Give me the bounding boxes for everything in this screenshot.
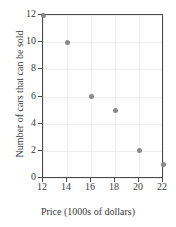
y-tick-mark — [38, 68, 42, 69]
data-point — [89, 94, 94, 99]
y-tick-mark — [38, 123, 42, 124]
x-tick-label: 18 — [102, 181, 126, 193]
y-tick-mark — [38, 177, 42, 178]
data-point — [161, 162, 166, 167]
y-tick-mark — [38, 96, 42, 97]
x-tick-label: 16 — [78, 181, 102, 193]
x-tick-label: 22 — [150, 181, 174, 193]
gridline-horizontal — [43, 69, 162, 70]
x-axis-title: Price (1000s of dollars) — [0, 206, 176, 218]
y-tick-mark — [38, 14, 42, 15]
gridline-horizontal — [43, 124, 162, 125]
y-tick-mark — [38, 150, 42, 151]
scatter-plot-figure: 121416182022 024681012 Price (1000s of d… — [0, 0, 176, 227]
gridline-horizontal — [43, 15, 162, 16]
data-point — [113, 108, 118, 113]
y-axis-title: Number of cars that can be sold — [14, 4, 26, 184]
x-tick-label: 20 — [126, 181, 150, 193]
data-point — [137, 148, 142, 153]
gridline-horizontal — [43, 151, 162, 152]
gridline-horizontal — [43, 178, 162, 179]
plot-area — [42, 14, 163, 178]
gridline-vertical — [163, 15, 164, 177]
data-point — [65, 40, 70, 45]
y-tick-mark — [38, 41, 42, 42]
x-tick-label: 14 — [54, 181, 78, 193]
gridline-horizontal — [43, 42, 162, 43]
gridline-horizontal — [43, 97, 162, 98]
